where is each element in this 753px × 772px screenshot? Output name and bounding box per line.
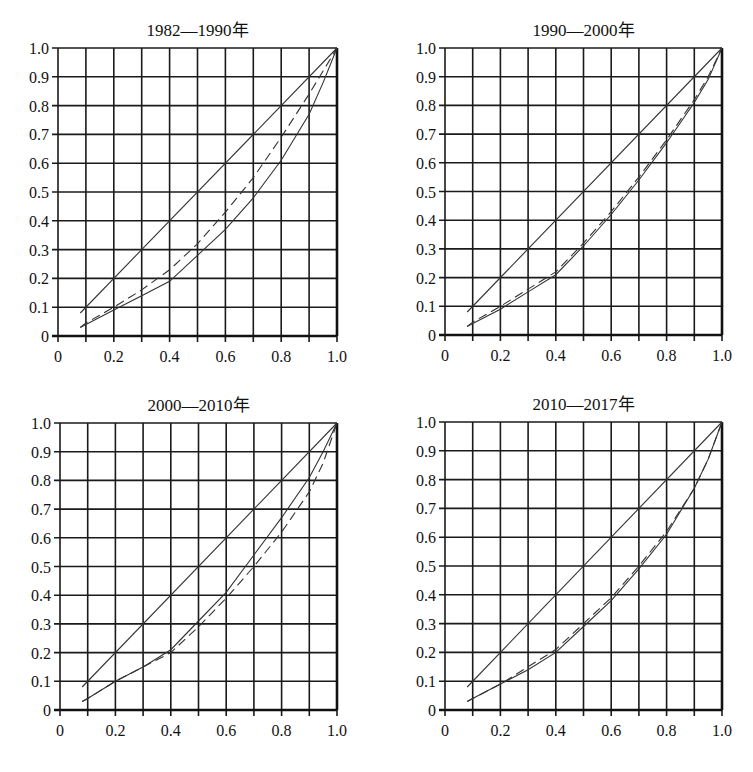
y-tick-label: 0.4 xyxy=(416,587,436,604)
x-tick-label: 0.6 xyxy=(601,722,621,739)
x-tick-label: 0.8 xyxy=(272,722,292,739)
y-tick-label: 0 xyxy=(428,702,436,719)
y-tick-label: 1.0 xyxy=(416,40,436,57)
equality-line xyxy=(80,48,337,313)
x-tick-label: 0 xyxy=(54,348,62,365)
equality-line xyxy=(82,423,337,687)
y-tick-label: 0.3 xyxy=(31,616,51,633)
x-tick-label: 1.0 xyxy=(712,347,732,364)
panel-2010-2017: 2010—2017年 00.10.20.30.40.50.60.70.80.91… xyxy=(416,395,732,739)
equality-line xyxy=(467,48,722,312)
panel-2000-2010: 2000—2010年 00.10.20.30.40.50.60.70.80.91… xyxy=(31,396,347,739)
y-tick-label: 0.8 xyxy=(416,97,436,114)
y-tick-label: 1.0 xyxy=(31,415,51,432)
y-tick-label: 0.1 xyxy=(29,299,49,316)
y-tick-label: 0.2 xyxy=(416,644,436,661)
y-axis-tick-labels: 00.10.20.30.40.50.60.70.80.91.0 xyxy=(29,40,49,345)
y-tick-label: 0.6 xyxy=(416,529,436,546)
x-tick-label: 1.0 xyxy=(327,722,347,739)
x-axis-tick-labels: 00.20.40.60.81.0 xyxy=(441,722,732,739)
panel-title: 1990—2000年 xyxy=(533,21,635,40)
curve-solid xyxy=(467,422,722,701)
x-tick-label: 0.4 xyxy=(546,722,566,739)
y-tick-label: 0.6 xyxy=(29,155,49,172)
y-tick-label: 0.7 xyxy=(416,500,436,517)
y-tick-label: 0.9 xyxy=(416,443,436,460)
x-tick-label: 0.2 xyxy=(104,348,124,365)
x-tick-label: 0.8 xyxy=(657,347,677,364)
panel-title: 1982—1990年 xyxy=(147,21,249,40)
x-tick-label: 0.8 xyxy=(271,348,291,365)
y-axis-tick-labels: 00.10.20.30.40.50.60.70.80.91.0 xyxy=(416,414,436,719)
curve-dashed xyxy=(467,48,722,326)
y-tick-label: 0.2 xyxy=(31,645,51,662)
x-tick-label: 1.0 xyxy=(712,722,732,739)
x-tick-label: 1.0 xyxy=(327,348,347,365)
y-axis-tick-labels: 00.10.20.30.40.50.60.70.80.91.0 xyxy=(31,415,51,719)
y-tick-label: 1.0 xyxy=(416,414,436,431)
x-tick-label: 0.2 xyxy=(490,347,510,364)
curve-solid xyxy=(80,48,337,327)
y-tick-label: 0.7 xyxy=(29,126,49,143)
x-tick-label: 0.2 xyxy=(490,722,510,739)
y-tick-label: 0.5 xyxy=(416,184,436,201)
x-tick-label: 0 xyxy=(441,722,449,739)
panel-title: 2000—2010年 xyxy=(148,396,250,415)
x-tick-label: 0 xyxy=(441,347,449,364)
y-tick-label: 1.0 xyxy=(29,40,49,57)
y-tick-label: 0.8 xyxy=(31,472,51,489)
panel-title: 2010—2017年 xyxy=(533,395,635,414)
y-tick-label: 0.4 xyxy=(31,587,51,604)
x-tick-label: 0.4 xyxy=(161,722,181,739)
y-tick-label: 0.3 xyxy=(416,616,436,633)
x-tick-label: 0 xyxy=(56,722,64,739)
y-tick-label: 0.4 xyxy=(416,212,436,229)
x-tick-label: 0.6 xyxy=(215,348,235,365)
x-tick-label: 0.6 xyxy=(601,347,621,364)
panel-1982-1990: 1982—1990年 00.10.20.30.40.50.60.70.80.91… xyxy=(29,21,347,365)
y-tick-label: 0.6 xyxy=(31,530,51,547)
x-tick-label: 0.4 xyxy=(546,347,566,364)
y-tick-label: 0.9 xyxy=(31,444,51,461)
x-axis-tick-labels: 00.20.40.60.81.0 xyxy=(441,347,732,364)
y-tick-label: 0.7 xyxy=(416,126,436,143)
equality-line xyxy=(467,422,722,687)
y-tick-label: 0.8 xyxy=(416,472,436,489)
x-axis-tick-labels: 00.20.40.60.81.0 xyxy=(54,348,347,365)
y-tick-label: 0.5 xyxy=(31,559,51,576)
y-tick-label: 0.2 xyxy=(29,270,49,287)
x-axis-tick-labels: 00.20.40.60.81.0 xyxy=(56,722,347,739)
curve-dashed xyxy=(80,48,337,327)
y-tick-label: 0.3 xyxy=(416,241,436,258)
y-tick-label: 0.5 xyxy=(29,184,49,201)
y-tick-label: 0 xyxy=(428,327,436,344)
y-tick-label: 0.9 xyxy=(416,69,436,86)
x-tick-label: 0.2 xyxy=(105,722,125,739)
x-tick-label: 0.4 xyxy=(160,348,180,365)
y-tick-label: 0 xyxy=(41,328,49,345)
lorenz-curve-figure: 1982—1990年 00.10.20.30.40.50.60.70.80.91… xyxy=(0,0,753,772)
y-tick-label: 0.2 xyxy=(416,270,436,287)
curve-solid xyxy=(82,423,337,701)
curve-solid xyxy=(467,48,722,326)
y-tick-label: 0.4 xyxy=(29,213,49,230)
y-axis-tick-labels: 00.10.20.30.40.50.60.70.80.91.0 xyxy=(416,40,436,344)
y-tick-label: 0 xyxy=(43,702,51,719)
curve-dashed xyxy=(82,423,337,701)
y-tick-label: 0.5 xyxy=(416,558,436,575)
y-tick-label: 0.1 xyxy=(416,298,436,315)
y-tick-label: 0.8 xyxy=(29,98,49,115)
y-tick-label: 0.6 xyxy=(416,155,436,172)
x-tick-label: 0.6 xyxy=(216,722,236,739)
y-tick-label: 0.9 xyxy=(29,69,49,86)
y-tick-label: 0.1 xyxy=(416,673,436,690)
panel-1990-2000: 1990—2000年 00.10.20.30.40.50.60.70.80.91… xyxy=(416,21,732,364)
x-tick-label: 0.8 xyxy=(657,722,677,739)
y-tick-label: 0.7 xyxy=(31,501,51,518)
y-tick-label: 0.1 xyxy=(31,673,51,690)
y-tick-label: 0.3 xyxy=(29,242,49,259)
curve-dashed xyxy=(467,422,722,701)
